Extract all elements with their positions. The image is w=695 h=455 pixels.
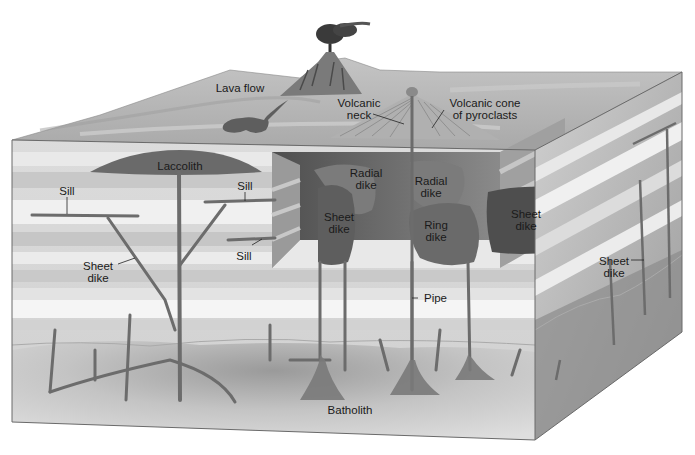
label-volcanic-neck: Volcanic neck: [334, 97, 384, 121]
label-laccolith: Laccolith: [148, 160, 212, 172]
igneous-structures-diagram: Lava flow Volcanic neck Volcanic cone of…: [0, 0, 695, 455]
label-volcanic-cone: Volcanic cone of pyroclasts: [442, 97, 528, 121]
eruption-plume: [316, 23, 370, 52]
label-sheet-dike-right-inner: Sheet dike: [506, 208, 546, 232]
label-sheet-dike-right-side: Sheet dike: [594, 255, 634, 279]
label-sill-lower-right: Sill: [232, 250, 256, 262]
label-pipe: Pipe: [424, 292, 460, 304]
label-sheet-dike-center: Sheet dike: [319, 211, 359, 235]
label-radial-dike-2: Radial dike: [411, 175, 451, 199]
label-lava-flow: Lava flow: [210, 82, 270, 94]
label-sill-upper-right: Sill: [233, 180, 257, 192]
label-batholith: Batholith: [318, 404, 382, 416]
label-ring-dike: Ring dike: [418, 219, 454, 243]
label-radial-dike-1: Radial dike: [346, 167, 386, 191]
label-sheet-dike-left: Sheet dike: [78, 260, 118, 284]
label-sill-left: Sill: [55, 185, 79, 197]
